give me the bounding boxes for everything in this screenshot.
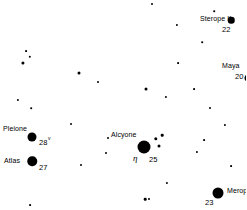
field-star <box>21 61 24 64</box>
field-star <box>158 145 161 148</box>
field-star <box>165 96 167 98</box>
field-star <box>193 88 195 90</box>
field-star <box>107 137 109 139</box>
field-star <box>224 124 226 126</box>
field-star <box>97 81 99 83</box>
field-star <box>213 10 215 12</box>
star-name-label: Sterope II <box>200 15 231 23</box>
field-star <box>29 204 31 206</box>
labeled-star-atlas <box>27 156 37 166</box>
field-star <box>161 134 164 137</box>
star-flamsteed-number: 22 <box>222 26 230 34</box>
star-flamsteed-number: 28 <box>39 139 47 147</box>
field-star <box>166 182 168 184</box>
labeled-star-maya <box>245 75 247 82</box>
field-star <box>177 62 179 64</box>
labeled-star-pleione <box>28 133 37 142</box>
field-star <box>78 72 81 75</box>
field-star <box>148 198 150 200</box>
field-star <box>25 50 27 52</box>
labeled-star-alcyone <box>138 141 151 154</box>
field-star <box>145 88 148 91</box>
star-name-label: Pleione <box>3 125 27 133</box>
field-star <box>30 107 32 109</box>
field-star <box>80 164 82 166</box>
field-star <box>196 151 198 153</box>
field-star <box>203 139 205 141</box>
star-name-label: Maya <box>222 62 240 70</box>
field-star <box>209 107 211 109</box>
star-name-label: Merope <box>227 187 246 195</box>
star-flamsteed-number: 20 <box>235 73 243 81</box>
field-star <box>230 165 232 167</box>
star-chart: Sterope II22Maya20Pleione28vAtlas27Alcyo… <box>0 0 246 210</box>
field-star <box>176 24 178 26</box>
star-name-label: Atlas <box>4 157 20 165</box>
star-flamsteed-number: 27 <box>39 164 47 172</box>
labeled-star-merope <box>213 188 224 199</box>
star-flamsteed-number: 23 <box>205 199 213 207</box>
field-star <box>70 123 72 125</box>
field-star <box>154 137 157 140</box>
field-star <box>151 3 153 5</box>
star-flamsteed-number: 25 <box>149 156 157 164</box>
star-name-label: Alcyone <box>111 131 137 139</box>
field-star <box>201 41 203 43</box>
field-star <box>144 198 147 201</box>
variable-star-mark: v <box>48 136 51 141</box>
field-star <box>17 99 19 101</box>
star-bayer-greek-letter: η <box>133 154 137 163</box>
field-star <box>105 152 107 154</box>
field-star <box>29 56 31 58</box>
